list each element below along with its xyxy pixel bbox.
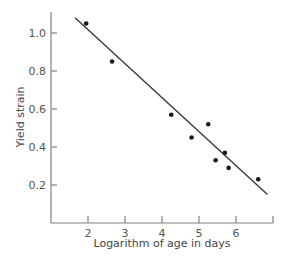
- data-point: [84, 21, 89, 26]
- x-tick-label: 6: [233, 227, 240, 240]
- y-tick-label: 0.2: [29, 179, 47, 192]
- y-tick-label: 0.4: [29, 141, 47, 154]
- data-point: [189, 135, 194, 140]
- data-point: [223, 150, 228, 155]
- y-tick-label: 0.8: [29, 65, 47, 78]
- data-point: [110, 59, 115, 64]
- scatter-chart: 0.20.40.60.81.0 23456 Logarithm of age i…: [0, 0, 288, 265]
- data-point: [213, 158, 218, 163]
- x-axis-title: Logarithm of age in days: [93, 237, 230, 250]
- data-point: [206, 122, 211, 127]
- y-tick-label: 0.6: [29, 103, 47, 116]
- axes: [51, 12, 273, 223]
- fit-line: [75, 18, 267, 195]
- y-tick-label: 1.0: [29, 27, 47, 40]
- data-point: [169, 112, 174, 117]
- data-point: [256, 177, 261, 182]
- regression-line: [75, 18, 267, 195]
- y-axis-ticks: 0.20.40.60.81.0: [29, 27, 58, 192]
- x-tick-label: 2: [85, 227, 92, 240]
- data-point: [226, 166, 231, 171]
- data-points: [84, 21, 261, 181]
- y-axis-title: Yield strain: [14, 86, 27, 148]
